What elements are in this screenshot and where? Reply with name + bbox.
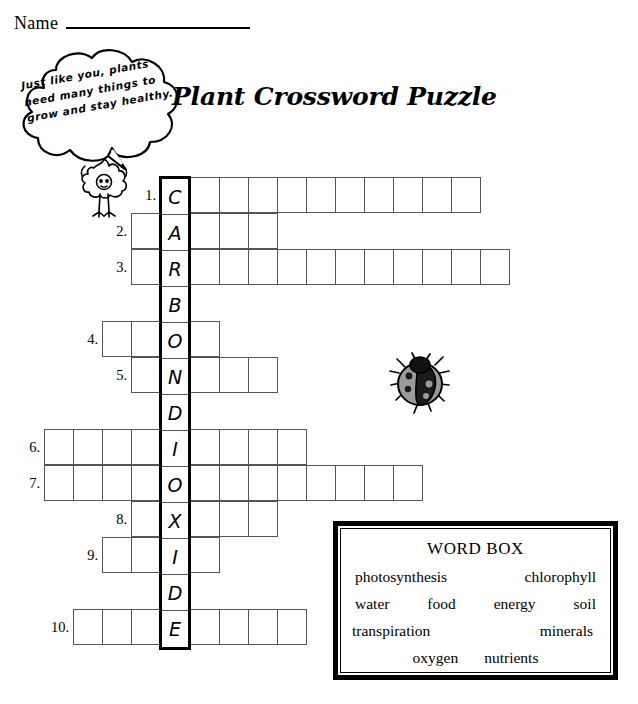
- crossword-row-5[interactable]: [131, 357, 160, 393]
- crossword-cell[interactable]: [248, 501, 278, 537]
- crossword-row-1-right[interactable]: [190, 177, 480, 213]
- crossword-cell[interactable]: [131, 609, 161, 645]
- crossword-cell[interactable]: [248, 249, 278, 285]
- crossword-cell[interactable]: [422, 249, 452, 285]
- crossword-cell[interactable]: [306, 465, 336, 501]
- crossword-cell[interactable]: [277, 249, 307, 285]
- word-box-word[interactable]: minerals: [540, 622, 593, 640]
- crossword-cell[interactable]: [451, 249, 481, 285]
- crossword-cell[interactable]: [131, 357, 161, 393]
- crossword-cell[interactable]: [131, 321, 161, 357]
- word-box-word[interactable]: transpiration: [352, 622, 430, 640]
- crossword-cell[interactable]: [335, 465, 365, 501]
- crossword-row-2-right[interactable]: [190, 213, 277, 249]
- crossword-cell[interactable]: [190, 537, 220, 573]
- crossword-row-3-right[interactable]: [190, 249, 509, 285]
- crossword-cell[interactable]: [131, 501, 161, 537]
- crossword-cell[interactable]: [393, 465, 423, 501]
- crossword-cell[interactable]: [73, 465, 103, 501]
- crossword-cell[interactable]: [219, 357, 249, 393]
- crossword-cell[interactable]: [190, 609, 220, 645]
- crossword-cell[interactable]: [44, 465, 74, 501]
- crossword-cell[interactable]: [248, 213, 278, 249]
- spine-letter-cell: D: [162, 575, 188, 611]
- crossword-cell[interactable]: [219, 429, 249, 465]
- word-box-word[interactable]: nutrients: [484, 649, 538, 667]
- crossword-cell[interactable]: [364, 465, 394, 501]
- crossword-cell[interactable]: [219, 177, 249, 213]
- crossword-cell[interactable]: [219, 501, 249, 537]
- crossword-cell[interactable]: [102, 465, 132, 501]
- crossword-cell[interactable]: [190, 465, 220, 501]
- crossword-cell[interactable]: [480, 249, 510, 285]
- crossword-cell[interactable]: [102, 321, 132, 357]
- crossword-cell[interactable]: [73, 429, 103, 465]
- crossword-cell[interactable]: [335, 249, 365, 285]
- name-write-line[interactable]: [66, 27, 250, 29]
- crossword-cell[interactable]: [219, 249, 249, 285]
- crossword-row-8[interactable]: [131, 501, 160, 537]
- crossword-row-8-right[interactable]: [190, 501, 277, 537]
- crossword-cell[interactable]: [190, 501, 220, 537]
- crossword-cell[interactable]: [248, 609, 278, 645]
- crossword-cell[interactable]: [364, 249, 394, 285]
- crossword-cell[interactable]: [364, 177, 394, 213]
- crossword-cell[interactable]: [131, 213, 161, 249]
- crossword-row-7[interactable]: [44, 465, 160, 501]
- crossword-cell[interactable]: [102, 537, 132, 573]
- crossword-cell[interactable]: [131, 537, 161, 573]
- crossword-cell[interactable]: [190, 357, 220, 393]
- word-box-word[interactable]: water: [355, 595, 389, 613]
- crossword-cell[interactable]: [102, 609, 132, 645]
- crossword-cell[interactable]: [393, 249, 423, 285]
- crossword-cell[interactable]: [306, 249, 336, 285]
- crossword-row-7-right[interactable]: [190, 465, 422, 501]
- crossword-cell[interactable]: [190, 249, 220, 285]
- crossword-cell[interactable]: [131, 249, 161, 285]
- crossword-row-4[interactable]: [102, 321, 160, 357]
- crossword-cell[interactable]: [102, 429, 132, 465]
- crossword-row-2[interactable]: [131, 213, 160, 249]
- word-box-word[interactable]: soil: [574, 595, 596, 613]
- crossword-cell[interactable]: [277, 177, 307, 213]
- clue-number-6: 6.: [6, 429, 40, 465]
- crossword-cell[interactable]: [393, 177, 423, 213]
- crossword-cell[interactable]: [248, 357, 278, 393]
- crossword-row-4-right[interactable]: [190, 321, 219, 357]
- word-box-word[interactable]: photosynthesis: [355, 568, 447, 586]
- crossword-row-9[interactable]: [102, 537, 160, 573]
- word-box-word[interactable]: food: [427, 595, 455, 613]
- crossword-row-5-right[interactable]: [190, 357, 277, 393]
- crossword-cell[interactable]: [131, 429, 161, 465]
- word-box-word[interactable]: chlorophyll: [525, 568, 596, 586]
- crossword-cell[interactable]: [131, 465, 161, 501]
- crossword-row-9-right[interactable]: [190, 537, 219, 573]
- crossword-cell[interactable]: [190, 321, 220, 357]
- crossword-cell[interactable]: [219, 465, 249, 501]
- crossword-cell[interactable]: [73, 609, 103, 645]
- crossword-cell[interactable]: [277, 465, 307, 501]
- crossword-cell[interactable]: [248, 429, 278, 465]
- crossword-cell[interactable]: [190, 429, 220, 465]
- crossword-cell[interactable]: [248, 465, 278, 501]
- crossword-row-10-right[interactable]: [190, 609, 306, 645]
- crossword-row-6-right[interactable]: [190, 429, 306, 465]
- crossword-row-6[interactable]: [44, 429, 160, 465]
- crossword-cell[interactable]: [335, 177, 365, 213]
- crossword-cell[interactable]: [277, 609, 307, 645]
- crossword-cell[interactable]: [277, 429, 307, 465]
- crossword-cell[interactable]: [190, 177, 220, 213]
- crossword-cell[interactable]: [422, 177, 452, 213]
- crossword-cell[interactable]: [451, 177, 481, 213]
- crossword-row-3[interactable]: [131, 249, 160, 285]
- crossword-cell[interactable]: [219, 213, 249, 249]
- crossword-cell[interactable]: [248, 177, 278, 213]
- crossword-row-10[interactable]: [73, 609, 160, 645]
- word-box-word[interactable]: energy: [494, 595, 536, 613]
- crossword-cell[interactable]: [219, 609, 249, 645]
- crossword-cell[interactable]: [190, 213, 220, 249]
- spine-letter-cell: I: [162, 539, 188, 575]
- word-box-word[interactable]: oxygen: [413, 649, 459, 667]
- crossword-cell[interactable]: [44, 429, 74, 465]
- crossword-cell[interactable]: [306, 177, 336, 213]
